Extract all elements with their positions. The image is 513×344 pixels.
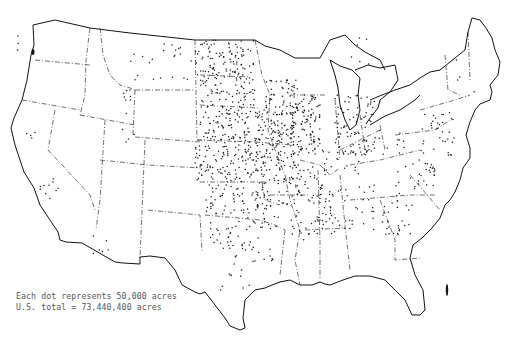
acreage-dot	[311, 139, 313, 141]
acreage-dot	[246, 229, 248, 231]
acreage-dot	[334, 98, 336, 100]
acreage-dot	[252, 172, 254, 174]
acreage-dot	[292, 233, 294, 235]
acreage-dot	[314, 175, 316, 177]
acreage-dot	[226, 178, 228, 180]
acreage-dot	[346, 195, 348, 197]
acreage-dot	[287, 203, 289, 205]
acreage-dot	[225, 99, 227, 101]
acreage-dot	[319, 114, 321, 116]
acreage-dot	[228, 125, 230, 127]
acreage-dot	[286, 134, 288, 136]
acreage-dot	[238, 149, 240, 151]
acreage-dot	[216, 160, 218, 162]
acreage-dot	[443, 114, 445, 116]
acreage-dot	[316, 106, 318, 108]
acreage-dot	[211, 91, 213, 93]
acreage-dot	[273, 137, 275, 139]
acreage-dot	[262, 187, 264, 189]
acreage-dot	[373, 190, 375, 192]
acreage-dot	[271, 94, 273, 96]
acreage-dot	[229, 59, 231, 61]
acreage-dot	[242, 67, 244, 69]
acreage-dot	[382, 214, 384, 216]
acreage-dot	[222, 146, 224, 148]
acreage-dot	[355, 207, 357, 209]
acreage-dot	[297, 154, 299, 156]
acreage-dot	[174, 54, 176, 56]
acreage-dot	[270, 144, 272, 146]
acreage-dot	[291, 156, 293, 158]
acreage-dot	[232, 96, 234, 98]
acreage-dot	[291, 195, 293, 197]
acreage-dot	[237, 194, 239, 196]
acreage-dot	[368, 63, 370, 65]
acreage-dot	[397, 139, 399, 141]
acreage-dot	[233, 209, 235, 211]
acreage-dot	[456, 59, 458, 61]
acreage-dot	[263, 161, 265, 163]
acreage-dot	[232, 101, 234, 103]
acreage-dot	[274, 94, 276, 96]
acreage-dot	[357, 208, 359, 210]
acreage-dot	[426, 169, 428, 171]
acreage-dot	[205, 132, 207, 134]
acreage-dot	[296, 215, 298, 217]
acreage-dot	[386, 228, 388, 230]
acreage-dot	[295, 185, 297, 187]
acreage-dot	[382, 154, 384, 156]
acreage-dot	[277, 159, 279, 161]
acreage-dot	[200, 79, 202, 81]
acreage-dot	[210, 222, 212, 224]
acreage-dot	[196, 179, 198, 181]
acreage-dot	[341, 127, 343, 128]
acreage-dot	[320, 187, 322, 189]
acreage-dot	[214, 77, 216, 79]
acreage-dot	[163, 43, 165, 45]
acreage-dot	[245, 160, 247, 162]
acreage-dot	[279, 114, 281, 116]
acreage-dot	[234, 155, 236, 157]
acreage-dot	[257, 237, 259, 239]
acreage-dot	[275, 175, 277, 177]
acreage-dot	[350, 150, 352, 152]
acreage-dot	[216, 52, 218, 54]
acreage-dot	[256, 151, 258, 153]
acreage-dot	[256, 194, 258, 196]
acreage-dot	[255, 198, 257, 200]
acreage-dot	[261, 226, 263, 228]
acreage-dot	[337, 94, 339, 96]
acreage-dot	[439, 137, 441, 139]
acreage-dot	[286, 129, 288, 131]
acreage-dot	[331, 233, 333, 235]
acreage-dot	[371, 211, 373, 213]
acreage-dot	[357, 107, 359, 109]
acreage-dot	[265, 96, 267, 98]
acreage-dot	[213, 130, 215, 132]
acreage-dot	[293, 141, 295, 143]
acreage-dot	[240, 78, 242, 80]
acreage-dot	[178, 48, 180, 50]
acreage-dot	[231, 137, 233, 139]
acreage-dot	[180, 47, 182, 49]
acreage-dot	[287, 143, 289, 145]
acreage-dot	[227, 155, 229, 157]
acreage-dot	[251, 159, 253, 161]
acreage-dot	[281, 87, 283, 89]
acreage-dot	[293, 93, 295, 95]
acreage-dot	[447, 138, 449, 140]
acreage-dot	[234, 141, 236, 143]
acreage-dot	[235, 154, 237, 156]
acreage-dot	[304, 122, 306, 124]
acreage-dot	[345, 220, 347, 222]
acreage-dot	[211, 93, 213, 95]
acreage-dot	[290, 142, 292, 144]
acreage-dot	[207, 167, 209, 169]
acreage-dot	[223, 209, 225, 211]
acreage-dot	[282, 104, 284, 106]
acreage-dot	[171, 44, 173, 46]
acreage-dot	[432, 120, 434, 122]
acreage-dot	[412, 163, 414, 165]
acreage-dot	[283, 181, 285, 183]
acreage-dot	[329, 206, 331, 208]
